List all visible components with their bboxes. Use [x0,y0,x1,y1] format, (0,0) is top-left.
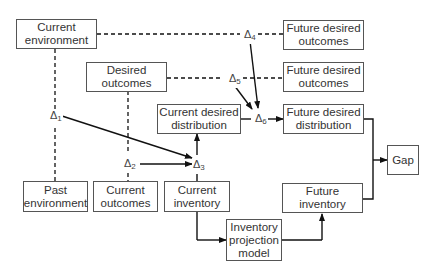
delta-6-label: Δ6 [254,112,268,128]
node-current-outcomes: Current outcomes [93,181,158,212]
delta-4-label: Δ4 [243,28,257,44]
node-inventory-projection-model: Inventory projection model [226,219,282,261]
node-current-inventory: Current inventory [164,181,230,212]
node-past-environment: Past environment [23,181,88,212]
node-desired-outcomes: Desired outcomes [86,62,167,92]
delta-2-label: Δ2 [123,157,137,173]
node-current-environment: Current environment [16,19,97,49]
node-future-inventory: Future inventory [282,183,363,213]
node-current-desired-distribution: Current desired distribution [157,104,241,134]
node-future-desired-outcomes-1: Future desired outcomes [283,20,364,50]
node-future-desired-outcomes-2: Future desired outcomes [283,62,364,92]
node-gap: Gap [387,145,419,175]
node-future-desired-distribution: Future desired distribution [283,104,364,134]
delta-5-label: Δ5 [228,72,242,88]
delta-1-label: Δ1 [49,109,63,125]
delta-3-label: Δ3 [192,158,206,174]
